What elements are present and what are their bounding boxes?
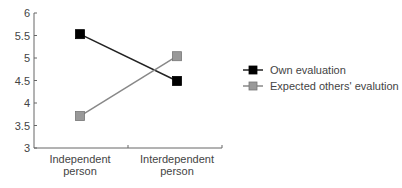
- x-tick-labels: IndependentpersonInterdependentperson: [49, 153, 214, 177]
- y-tick-label: 6: [24, 7, 30, 19]
- legend-marker: [249, 66, 257, 74]
- legend: Own evaluationExpected others' evalution: [243, 64, 399, 92]
- x-tick-label: person: [63, 165, 97, 177]
- legend-label: Own evaluation: [270, 64, 346, 76]
- legend-label: Expected others' evalution: [270, 80, 399, 92]
- y-tick-label: 4: [24, 97, 30, 109]
- series-line: [80, 56, 177, 116]
- series-line: [80, 34, 177, 81]
- series-group: [76, 30, 182, 121]
- y-tick-label: 3.5: [15, 120, 30, 132]
- legend-marker: [249, 82, 257, 90]
- data-point-marker: [173, 52, 182, 61]
- axes: [34, 13, 222, 148]
- data-point-marker: [76, 30, 85, 39]
- y-tick-label: 5.5: [15, 30, 30, 42]
- y-tick-labels: 33.544.555.56: [15, 7, 30, 154]
- line-chart: 33.544.555.56 IndependentpersonInterdepe…: [0, 0, 402, 188]
- data-point-marker: [173, 76, 182, 85]
- y-tick-label: 3: [24, 142, 30, 154]
- data-point-marker: [76, 112, 85, 121]
- x-tick-label: Independent: [49, 153, 110, 165]
- x-tick-label: person: [160, 165, 194, 177]
- x-tick-label: Interdependent: [140, 153, 214, 165]
- y-tick-label: 4.5: [15, 75, 30, 87]
- y-tick-label: 5: [24, 52, 30, 64]
